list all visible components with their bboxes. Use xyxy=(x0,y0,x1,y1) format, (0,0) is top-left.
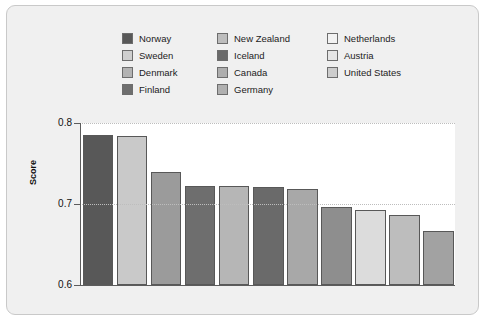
chart-legend: NorwaySwedenDenmarkFinlandNew ZealandIce… xyxy=(122,30,432,98)
gridline xyxy=(80,123,455,124)
legend-item[interactable]: United States xyxy=(327,64,432,81)
legend-swatch xyxy=(122,33,133,44)
legend-label: Austria xyxy=(344,50,374,61)
y-tick-mark xyxy=(74,285,80,286)
legend-item[interactable]: Iceland xyxy=(217,47,327,64)
legend-item[interactable]: Netherlands xyxy=(327,30,432,47)
legend-swatch xyxy=(327,50,338,61)
bar[interactable] xyxy=(389,215,420,285)
y-axis-title-wrap: Score xyxy=(28,185,53,195)
legend-item[interactable]: Austria xyxy=(327,47,432,64)
legend-label: Denmark xyxy=(139,67,178,78)
bar[interactable] xyxy=(355,210,386,285)
legend-swatch xyxy=(217,67,228,78)
legend-label: Iceland xyxy=(234,50,265,61)
bar[interactable] xyxy=(151,172,182,285)
legend-swatch xyxy=(217,50,228,61)
legend-item[interactable]: Finland xyxy=(122,81,217,98)
legend-label: Finland xyxy=(139,84,170,95)
y-tick-label: 0.8 xyxy=(42,117,72,128)
y-tick-mark xyxy=(74,123,80,124)
bar[interactable] xyxy=(117,136,148,285)
legend-swatch xyxy=(217,84,228,95)
legend-swatch xyxy=(122,50,133,61)
legend-swatch xyxy=(122,67,133,78)
legend-label: New Zealand xyxy=(234,33,290,44)
bar[interactable] xyxy=(83,135,114,285)
legend-swatch xyxy=(327,33,338,44)
y-tick-label: 0.7 xyxy=(42,198,72,209)
legend-item[interactable]: New Zealand xyxy=(217,30,327,47)
chart-screenshot: NorwaySwedenDenmarkFinlandNew ZealandIce… xyxy=(0,0,485,320)
y-tick-mark xyxy=(74,204,80,205)
y-tick-label: 0.6 xyxy=(42,279,72,290)
legend-label: Sweden xyxy=(139,50,173,61)
y-axis-line xyxy=(80,123,81,285)
legend-label: Netherlands xyxy=(344,33,395,44)
gridline xyxy=(80,204,455,205)
bar[interactable] xyxy=(219,186,250,285)
legend-item[interactable]: Canada xyxy=(217,64,327,81)
legend-item[interactable]: Denmark xyxy=(122,64,217,81)
legend-label: Canada xyxy=(234,67,267,78)
legend-item[interactable]: Norway xyxy=(122,30,217,47)
legend-swatch xyxy=(122,84,133,95)
legend-swatch xyxy=(327,67,338,78)
legend-label: United States xyxy=(344,67,401,78)
legend-swatch xyxy=(217,33,228,44)
bar[interactable] xyxy=(423,231,454,285)
y-axis-title: Score xyxy=(28,160,38,185)
bar[interactable] xyxy=(185,186,216,285)
bar[interactable] xyxy=(253,187,284,285)
legend-label: Norway xyxy=(139,33,171,44)
legend-item[interactable]: Germany xyxy=(217,81,327,98)
plot-area xyxy=(80,123,455,285)
legend-item[interactable]: Sweden xyxy=(122,47,217,64)
legend-label: Germany xyxy=(234,84,273,95)
bar[interactable] xyxy=(321,207,352,285)
x-axis-line xyxy=(80,285,455,286)
